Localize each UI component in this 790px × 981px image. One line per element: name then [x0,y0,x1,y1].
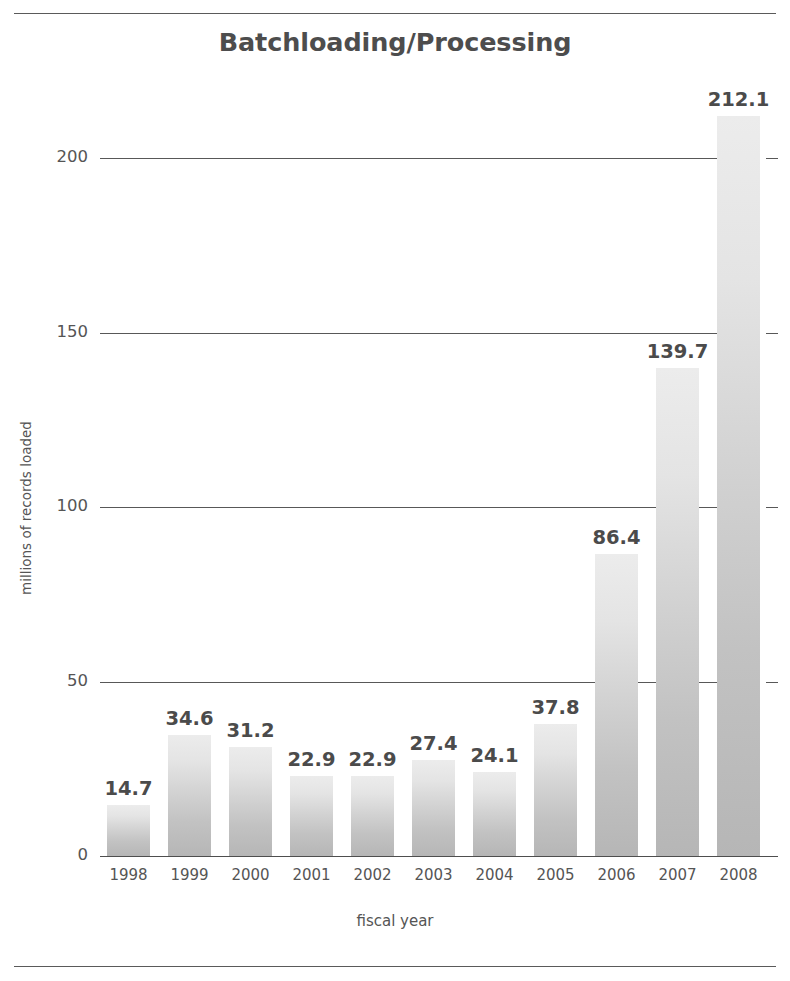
bar-value-label-2000: 31.2 [205,719,297,742]
x-axis-title: fiscal year [0,912,790,930]
bar-2007[interactable] [656,368,699,856]
x-axis-baseline [100,856,778,857]
bar-value-label-2007: 139.7 [632,340,724,363]
y-tick-label-100: 100 [14,496,88,515]
bar-1998[interactable] [107,805,150,856]
bar-value-label-2004: 24.1 [449,744,541,767]
gridline-200 [100,158,756,159]
gridline-150 [100,333,756,334]
gridline-right-tick-100 [766,507,778,508]
chart-plot-area: millions of records loaded 0501001502001… [0,0,790,981]
bar-2004[interactable] [473,772,516,856]
bar-value-label-2008: 212.1 [693,88,785,111]
y-tick-label-0: 0 [14,845,88,864]
bar-value-label-2005: 37.8 [510,696,602,719]
bar-value-label-1998: 14.7 [83,777,175,800]
bar-2008[interactable] [717,116,760,856]
bar-2002[interactable] [351,776,394,856]
x-tick-label-2008: 2008 [693,866,785,884]
y-tick-label-200: 200 [14,147,88,166]
bar-2001[interactable] [290,776,333,856]
y-tick-label-150: 150 [14,322,88,341]
gridline-right-tick-150 [766,333,778,334]
gridline-right-tick-50 [766,682,778,683]
bar-value-label-2006: 86.4 [571,526,663,549]
y-tick-label-50: 50 [14,671,88,690]
bar-2003[interactable] [412,760,455,856]
gridline-right-tick-200 [766,158,778,159]
